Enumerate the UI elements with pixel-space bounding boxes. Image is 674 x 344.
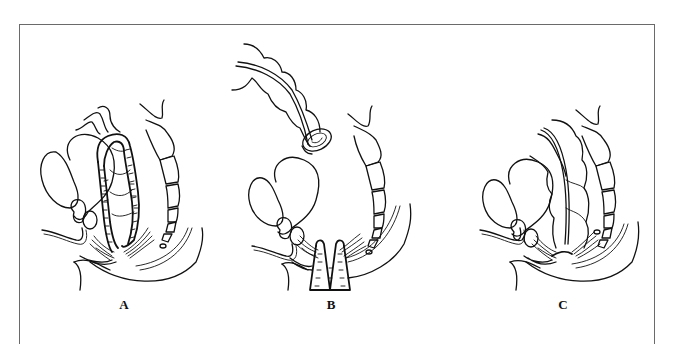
panel-label-c: C <box>558 297 567 313</box>
panel-c-illustration <box>480 106 639 290</box>
panel-label-a: A <box>119 297 128 313</box>
panel-b-illustration <box>232 44 411 290</box>
panel-label-b: B <box>327 297 336 313</box>
panel-a-illustration <box>41 100 203 290</box>
